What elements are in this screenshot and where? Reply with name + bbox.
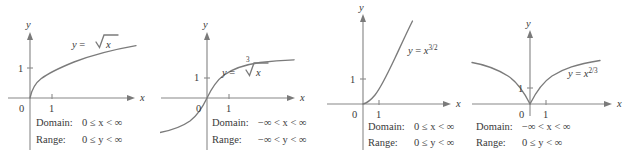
svg-text:y =: y = (221, 67, 235, 78)
x-axis-arrow-icon (127, 95, 135, 101)
panel-sqrt: x y 1 1 0 y = x Domain: 0 ≤ x < ∞ Range:… (0, 0, 160, 156)
domain-label: Domain: (36, 117, 73, 128)
domain-value: −∞ < x < ∞ (522, 121, 571, 132)
range-label: Range: (476, 137, 506, 148)
x-axis-label: x (139, 92, 145, 103)
range-value: 0 ≤ y < ∞ (414, 137, 454, 148)
x-axis-label: x (616, 98, 622, 109)
cbrt-index: 3 (246, 56, 250, 64)
x-axis-label: x (299, 92, 305, 103)
function-label-sqrt: y = x (71, 35, 118, 50)
x-axis-arrow-icon (443, 101, 451, 107)
svg-text:y =: y = (71, 39, 85, 50)
x-tick-label-1: 1 (543, 109, 548, 120)
range-label: Range: (212, 134, 242, 145)
origin-label: 0 (352, 109, 357, 120)
y-axis-arrow-icon (27, 32, 33, 40)
curve-x32 (363, 21, 413, 104)
y-axis-arrow-icon (360, 14, 366, 22)
origin-label: 0 (19, 103, 24, 114)
domain-value: 0 ≤ x < ∞ (414, 121, 454, 132)
fn-exponent: 3/2 (429, 44, 439, 52)
origin-label: 0 (196, 103, 201, 114)
origin-label: 0 (519, 109, 524, 120)
x-axis-label: x (455, 98, 461, 109)
function-label-cbrt: y = 3 x (221, 56, 268, 78)
y-tick-label-1: 1 (518, 83, 523, 94)
y-axis-label: y (202, 19, 208, 30)
x-tick-label-1: 1 (376, 109, 381, 120)
range-label: Range: (36, 134, 66, 145)
fn-exponent: 2/3 (589, 67, 599, 75)
function-label-x32: y = x3/2 (407, 44, 438, 56)
svg-text:y = x3/2: y = x3/2 (407, 44, 438, 56)
range-value: 0 ≤ y < ∞ (522, 137, 562, 148)
x-tick-label-1: 1 (49, 103, 54, 114)
y-axis-label: y (525, 18, 531, 29)
y-axis-label: y (358, 2, 364, 13)
y-tick-label-1: 1 (194, 72, 199, 83)
x-axis-arrow-icon (604, 101, 612, 107)
panel-x32: x y 1 1 0 y = x3/2 Domain: 0 ≤ x < ∞ Ran… (325, 0, 485, 156)
range-label: Range: (368, 137, 398, 148)
range-value: −∞ < y < ∞ (258, 134, 307, 145)
range-value: 0 ≤ y < ∞ (82, 134, 122, 145)
curve-sqrt (30, 46, 136, 98)
domain-label: Domain: (476, 121, 513, 132)
fn-x: x (255, 67, 261, 78)
x-tick-label-1: 1 (226, 103, 231, 114)
y-axis-arrow-icon (204, 32, 210, 40)
y-axis-label: y (25, 19, 31, 30)
domain-label: Domain: (212, 117, 249, 128)
domain-label: Domain: (368, 121, 405, 132)
svg-text:y = x2/3: y = x2/3 (567, 67, 598, 79)
panel-x23: x y 1 1 0 y = x2/3 Domain: −∞ < x < ∞ Ra… (470, 0, 630, 156)
y-tick-label-1: 1 (350, 74, 355, 85)
function-label-x23: y = x2/3 (567, 67, 598, 79)
x-axis-arrow-icon (287, 95, 295, 101)
y-axis-arrow-icon (527, 30, 533, 38)
figure-strip: x y 1 1 0 y = x Domain: 0 ≤ x < ∞ Range:… (0, 0, 630, 156)
panel-cbrt: x y 1 1 0 y = 3 x Domain: −∞ < x < ∞ Ran… (160, 0, 320, 156)
fn-x: x (105, 39, 111, 50)
y-tick-label-1: 1 (18, 63, 23, 74)
domain-value: 0 ≤ x < ∞ (82, 117, 122, 128)
domain-value: −∞ < x < ∞ (258, 117, 307, 128)
